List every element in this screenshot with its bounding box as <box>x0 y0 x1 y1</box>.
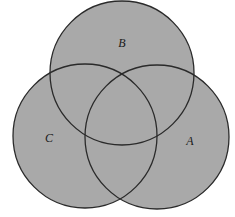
venn-diagram: A B C <box>0 0 235 217</box>
set-c-label: C <box>45 131 54 145</box>
set-b-label: B <box>118 36 126 50</box>
set-a-label: A <box>185 134 194 148</box>
